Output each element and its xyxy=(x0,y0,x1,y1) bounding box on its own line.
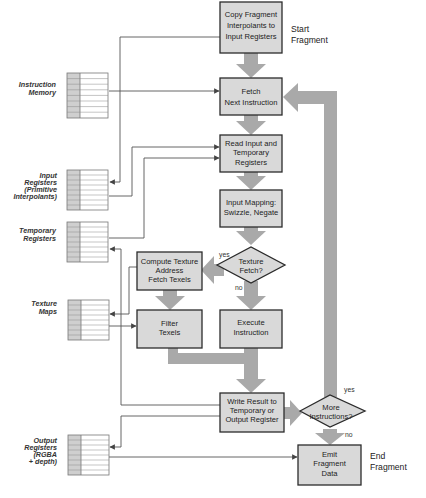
terminal-label: Start xyxy=(291,24,310,34)
box-label: Data xyxy=(321,469,338,478)
box-label: Temporary or xyxy=(230,406,275,415)
flow-arrow-texture-fetch-yes xyxy=(201,256,224,284)
wire-compute-to-texture-maps xyxy=(110,267,137,314)
register-table-icon xyxy=(67,73,108,118)
box-label: Input Registers xyxy=(225,32,276,41)
branch-label-more-yes: yes xyxy=(344,386,355,394)
box-label: Write Result to xyxy=(227,397,277,406)
box-label: Fetch Texels xyxy=(148,275,191,284)
flow-arrow-more-instructions-no xyxy=(315,429,345,445)
box-label: Next Instruction xyxy=(225,98,278,107)
decision-label: Instructions? xyxy=(309,412,352,421)
process-box-fetch-instruction: Fetch Next Instruction xyxy=(220,78,282,115)
box-label: Instruction xyxy=(233,328,268,337)
register-table-icon xyxy=(68,300,109,340)
decision-more-instructions: More Instructions? xyxy=(300,395,365,427)
memory-label: Registers xyxy=(23,234,56,243)
box-label: Execute xyxy=(237,318,264,327)
box-label: Compute Texture xyxy=(141,257,199,266)
box-label: Copy Fragment xyxy=(225,10,278,19)
wire-write-to-output-registers xyxy=(110,416,220,447)
process-box-compute-texture-address: Compute Texture Address Fetch Texels xyxy=(137,252,202,290)
memory-texture-maps: Texture Maps xyxy=(31,299,109,340)
register-table-icon xyxy=(67,170,108,210)
flow-arrow-write-to-more-instructions xyxy=(284,400,302,426)
wire-input-registers-to-read xyxy=(109,147,219,196)
decision-label: Fetch? xyxy=(239,266,262,275)
branch-label-texture-no: no xyxy=(235,284,243,291)
wire-temporary-registers-to-read xyxy=(109,158,219,238)
memory-label: Maps xyxy=(39,307,57,316)
process-box-execute-instruction: Execute Instruction xyxy=(220,310,282,348)
box-label: Swizzle, Negate xyxy=(224,208,278,217)
process-box-input-mapping: Input Mapping: Swizzle, Negate xyxy=(220,190,282,227)
box-label: Output Register xyxy=(225,415,279,424)
decision-label: More xyxy=(322,403,339,412)
register-table-icon xyxy=(68,435,109,475)
flow-arrow-merge-to-write xyxy=(168,348,266,393)
process-box-write-result: Write Result to Temporary or Output Regi… xyxy=(220,393,284,432)
box-label: Address xyxy=(156,266,184,275)
box-label: Interpolants to xyxy=(227,21,275,30)
fragment-processor-flowchart: Copy Fragment Interpolants to Input Regi… xyxy=(0,0,426,498)
flow-arrow-read-to-mapping xyxy=(236,172,266,190)
box-label: Filter xyxy=(161,319,178,328)
memory-output-registers: Output Registers (RGBA + depth) xyxy=(24,435,109,475)
flow-arrow-fetch-to-read xyxy=(236,115,266,135)
process-box-filter-texels: Filter Texels xyxy=(137,310,202,348)
memory-input-registers: Input Registers (Primitive Interpolants) xyxy=(13,170,108,210)
box-label: Texels xyxy=(159,328,181,337)
flow-arrow-compute-to-filter xyxy=(155,290,185,310)
terminal-label: Fragment xyxy=(291,35,328,45)
process-box-read-registers: Read Input and Temporary Registers xyxy=(220,135,282,172)
flow-arrow-mapping-to-texture-fetch xyxy=(236,227,266,245)
decision-label: Texture xyxy=(239,257,264,266)
terminal-start-fragment: Start Fragment xyxy=(291,24,328,45)
memory-label: + depth) xyxy=(29,457,58,466)
process-box-copy-fragment: Copy Fragment Interpolants to Input Regi… xyxy=(220,2,282,53)
flow-arrow-loop-back-to-fetch xyxy=(283,83,337,397)
branch-label-more-no: no xyxy=(345,431,353,438)
flow-arrow-copy-to-fetch xyxy=(236,53,266,78)
box-label: Temporary xyxy=(233,148,269,157)
branch-label-texture-yes: yes xyxy=(219,251,230,259)
box-label: Fetch xyxy=(242,87,261,96)
memory-label: Interpolants) xyxy=(13,192,57,201)
memory-temporary-registers: Temporary Registers xyxy=(19,222,108,262)
box-label: Registers xyxy=(235,158,267,167)
memory-label: Memory xyxy=(28,88,57,97)
wire-copy-to-input-registers xyxy=(110,37,220,182)
register-table-icon xyxy=(67,222,108,262)
terminal-label: Fragment xyxy=(370,462,407,472)
memory-instruction-memory: Instruction Memory xyxy=(19,73,108,118)
box-label: Read Input and xyxy=(225,139,277,148)
box-label: Emit xyxy=(322,450,338,459)
process-box-emit-fragment-data: Emit Fragment Data xyxy=(298,445,361,485)
terminal-end-fragment: End Fragment xyxy=(370,451,407,472)
terminal-label: End xyxy=(370,451,386,461)
box-label: Fragment xyxy=(313,459,346,468)
box-label: Input Mapping: xyxy=(226,198,276,207)
